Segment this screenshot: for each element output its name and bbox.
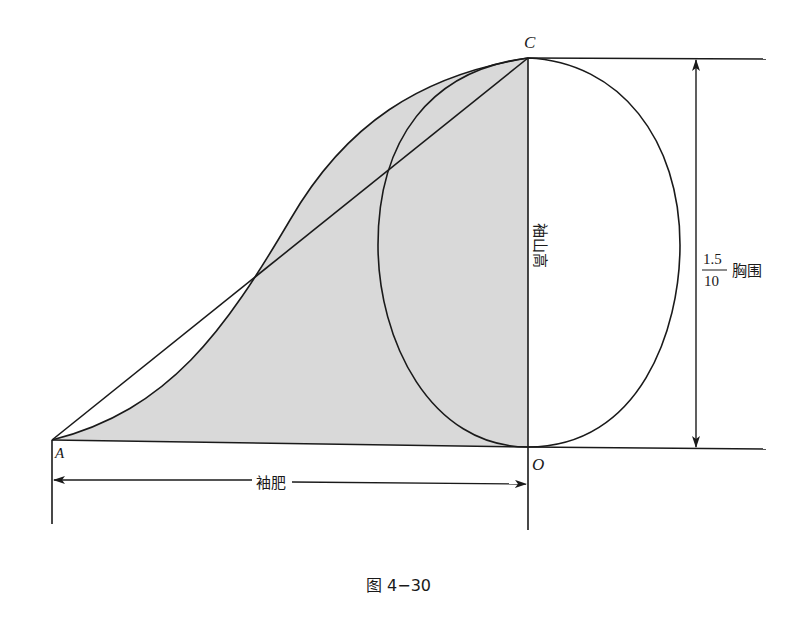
point-label-o: O bbox=[532, 455, 544, 474]
chest-fraction-denominator: 10 bbox=[704, 273, 719, 289]
top-line-c bbox=[528, 58, 766, 59]
sleeve-diagram: C A O 袖肥 袖山高 1.5 10 胸围 图 4−30 bbox=[0, 0, 810, 620]
figure-caption: 图 4−30 bbox=[366, 576, 431, 595]
figure-canvas: C A O 袖肥 袖山高 1.5 10 胸围 图 4−30 bbox=[0, 0, 810, 620]
point-label-c: C bbox=[524, 33, 536, 52]
sleeve-cap-height-label: 袖山高 bbox=[531, 223, 549, 268]
baseline-extension bbox=[528, 447, 766, 449]
sleeve-width-arrow-right bbox=[292, 482, 526, 484]
sleeve-width-label: 袖肥 bbox=[256, 474, 286, 492]
chest-fraction-numerator: 1.5 bbox=[703, 251, 722, 267]
sleeve-cap-shaded-area bbox=[52, 58, 528, 447]
point-label-a: A bbox=[54, 445, 65, 461]
chest-label: 胸围 bbox=[732, 262, 762, 280]
